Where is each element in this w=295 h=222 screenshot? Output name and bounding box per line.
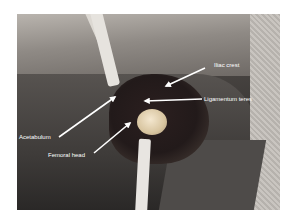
label-femoral-head: Femoral head (48, 152, 85, 158)
annotation-arrows (0, 0, 295, 222)
label-ligamentum-teres: Ligamentum teres (204, 96, 252, 102)
label-iliac-crest: Iliac crest (214, 62, 239, 68)
arrow-acetabulum (59, 97, 115, 137)
arrow-ligamentum-teres (145, 99, 202, 101)
arrow-femoral-head (94, 123, 130, 153)
label-acetabulum: Acetabulum (19, 134, 51, 140)
arrow-iliac-crest (166, 68, 205, 86)
